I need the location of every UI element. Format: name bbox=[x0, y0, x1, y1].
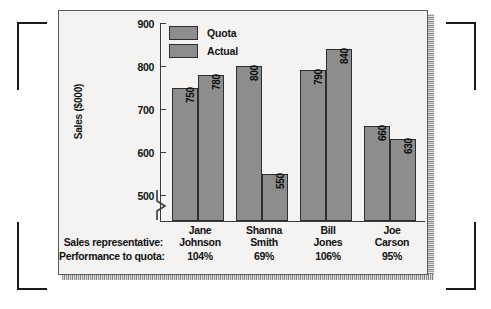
performance-value-0: 104% bbox=[168, 250, 232, 262]
legend-label-actual: Actual bbox=[207, 45, 238, 57]
bar-quota-0: 750 bbox=[172, 88, 198, 222]
y-tick-mark-800 bbox=[160, 66, 166, 67]
plot-area: Sales ($000) 900 800 700 600 500 Quota A… bbox=[59, 11, 429, 276]
category-label-1: Shanna Smith bbox=[232, 225, 296, 248]
category-label-0: Jane Johnson bbox=[168, 225, 232, 248]
y-tick-label-700: 700 bbox=[120, 104, 154, 116]
y-tick-mark-600 bbox=[160, 152, 166, 153]
bar-value-label-quota-0: 750 bbox=[185, 87, 196, 103]
y-tick-label-500: 500 bbox=[120, 190, 154, 202]
category-line2-1: Smith bbox=[232, 237, 296, 249]
bar-value-label-quota-3: 660 bbox=[377, 125, 388, 141]
frame-corner-top-right bbox=[446, 22, 476, 90]
footer-row-label-sales-representative: Sales representative: bbox=[59, 236, 163, 248]
performance-value-1: 69% bbox=[232, 250, 296, 262]
y-axis-break-icon bbox=[154, 189, 168, 221]
performance-value-2: 106% bbox=[296, 250, 360, 262]
bar-quota-1: 800 bbox=[236, 66, 262, 221]
bar-value-label-quota-1: 800 bbox=[249, 65, 260, 81]
frame-corner-bottom-left bbox=[17, 222, 47, 290]
bar-value-label-actual-3: 630 bbox=[403, 138, 414, 154]
x-axis-line bbox=[160, 221, 425, 222]
footer-row-label-performance-to-quota: Performance to quota: bbox=[59, 250, 163, 262]
category-label-3: Joe Carson bbox=[360, 225, 424, 248]
y-tick-mark-900 bbox=[160, 23, 166, 24]
category-line2-0: Johnson bbox=[168, 237, 232, 249]
legend-swatch-actual bbox=[169, 44, 198, 58]
category-label-2: Bill Jones bbox=[296, 225, 360, 248]
bar-actual-2: 840 bbox=[326, 49, 352, 221]
category-line2-3: Carson bbox=[360, 237, 424, 249]
legend-swatch-quota bbox=[169, 26, 198, 40]
chart-panel: Sales ($000) 900 800 700 600 500 Quota A… bbox=[58, 10, 428, 275]
bar-value-label-quota-2: 790 bbox=[313, 69, 324, 85]
y-axis-title: Sales ($000) bbox=[73, 57, 84, 167]
legend: Quota Actual bbox=[169, 25, 238, 61]
legend-item-actual: Actual bbox=[169, 43, 238, 59]
category-line1-2: Bill bbox=[296, 225, 360, 237]
legend-label-quota: Quota bbox=[207, 27, 236, 39]
category-line2-2: Jones bbox=[296, 237, 360, 249]
category-line1-0: Jane bbox=[168, 225, 232, 237]
bar-actual-1: 550 bbox=[262, 174, 288, 222]
y-tick-label-600: 600 bbox=[120, 147, 154, 159]
bar-value-label-actual-0: 780 bbox=[211, 74, 222, 90]
y-tick-mark-700 bbox=[160, 109, 166, 110]
bar-quota-2: 790 bbox=[300, 70, 326, 221]
category-axis-labels: Jane Johnson Shanna Smith Bill Jones Joe… bbox=[59, 223, 429, 275]
performance-value-3: 95% bbox=[360, 250, 424, 262]
y-tick-label-800: 800 bbox=[120, 61, 154, 73]
bar-actual-0: 780 bbox=[198, 75, 224, 221]
category-line1-3: Joe bbox=[360, 225, 424, 237]
category-line1-1: Shanna bbox=[232, 225, 296, 237]
bar-actual-3: 630 bbox=[390, 139, 416, 221]
frame-corner-bottom-right bbox=[446, 222, 476, 290]
y-tick-label-900: 900 bbox=[120, 18, 154, 30]
legend-item-quota: Quota bbox=[169, 25, 238, 41]
bar-value-label-actual-2: 840 bbox=[339, 48, 350, 64]
bar-value-label-actual-1: 550 bbox=[275, 173, 286, 189]
bar-quota-3: 660 bbox=[364, 126, 390, 221]
frame-corner-top-left bbox=[17, 22, 47, 90]
